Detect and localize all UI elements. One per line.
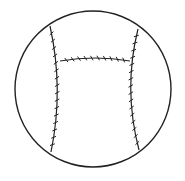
ball-drawing	[0, 0, 185, 181]
right-seam	[131, 29, 139, 150]
left-seam	[50, 26, 57, 152]
crossbar-seam	[60, 58, 130, 61]
ball-illustration: Line drawing of a ball with stitched sea…	[0, 0, 185, 181]
ball-outline	[15, 11, 171, 167]
